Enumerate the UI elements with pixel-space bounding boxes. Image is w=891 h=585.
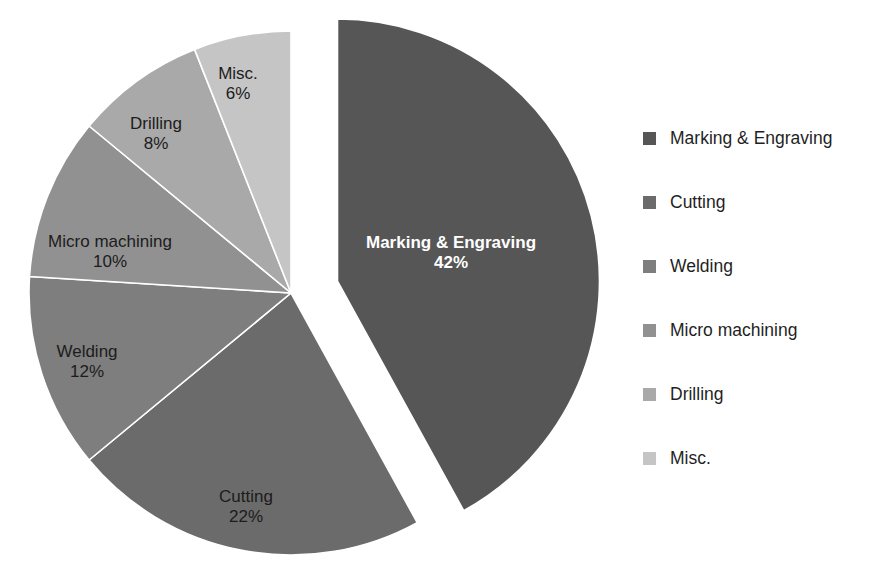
legend-swatch-icon <box>643 452 656 465</box>
legend-swatch-icon <box>643 196 656 209</box>
legend-swatch-icon <box>643 324 656 337</box>
slice-label-name: Marking & Engraving <box>366 233 536 252</box>
legend-swatch-icon <box>643 260 656 273</box>
slice-label-value: 12% <box>70 362 104 381</box>
legend-item-label: Marking & Engraving <box>670 130 832 148</box>
legend-swatch-icon <box>643 132 656 145</box>
legend-swatch-icon <box>643 388 656 401</box>
legend-item[interactable]: Cutting <box>643 191 883 214</box>
legend-item-label: Micro machining <box>670 322 797 340</box>
pie-slice[interactable] <box>337 19 599 511</box>
slice-label-name: Welding <box>56 342 117 361</box>
chart-legend: Marking & EngravingCuttingWeldingMicro m… <box>643 127 883 470</box>
slice-label-name: Misc. <box>218 64 258 83</box>
legend-item-label: Welding <box>670 258 733 276</box>
pie-chart-figure: Marking & Engraving42%Cutting22%Welding1… <box>0 0 891 585</box>
slice-label-value: 10% <box>93 252 127 271</box>
legend-item[interactable]: Drilling <box>643 383 883 406</box>
legend-item[interactable]: Micro machining <box>643 319 883 342</box>
legend-item[interactable]: Marking & Engraving <box>643 127 883 150</box>
slice-label-name: Micro machining <box>48 232 172 251</box>
slice-label-value: 22% <box>229 507 263 526</box>
legend-item-label: Drilling <box>670 386 723 404</box>
legend-item[interactable]: Welding <box>643 255 883 278</box>
slice-label-value: 6% <box>226 84 251 103</box>
slice-label-name: Cutting <box>219 487 273 506</box>
slice-label-name: Drilling <box>130 114 182 133</box>
slice-label-value: 42% <box>434 253 468 272</box>
slice-label-value: 8% <box>144 134 169 153</box>
legend-item-label: Misc. <box>670 450 711 468</box>
legend-item-label: Cutting <box>670 194 725 212</box>
legend-item[interactable]: Misc. <box>643 447 883 470</box>
